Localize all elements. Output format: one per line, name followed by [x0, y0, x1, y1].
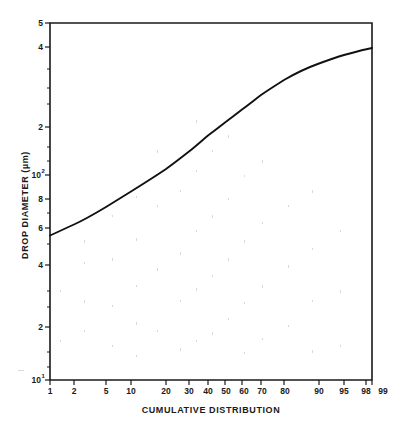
y-tick-label-60: 6 — [38, 223, 43, 233]
x-axis-title: CUMULATIVE DISTRIBUTION — [142, 405, 281, 415]
x-tick-label-50: 50 — [221, 386, 231, 396]
y-tick-label-40: 4 — [38, 260, 43, 270]
x-tick-label-2: 2 — [72, 386, 77, 396]
y-tick-label-20: 2 — [38, 322, 43, 332]
y-tick-label-10: 10 — [32, 375, 42, 385]
x-tick-label-95: 95 — [339, 386, 349, 396]
y-tick-label-80: 8 — [38, 194, 43, 204]
y-tick-label-200: 2 — [38, 122, 43, 132]
figure-background — [0, 0, 401, 434]
chart-figure: 5 4 2 10 2 8 6 4 2 10 1 — [0, 0, 401, 434]
x-tick-label-30: 30 — [184, 386, 194, 396]
x-tick-label-5: 5 — [104, 386, 109, 396]
y-tick-label-500: 5 — [38, 18, 43, 28]
x-tick-label-20: 20 — [161, 386, 171, 396]
y-tick-label-100: 10 — [32, 170, 42, 180]
x-tick-label-60: 60 — [239, 386, 249, 396]
x-tick-label-70: 70 — [257, 386, 267, 396]
x-tick-label-10: 10 — [126, 386, 136, 396]
x-tick-label-90: 90 — [314, 386, 324, 396]
x-tick-label-98: 98 — [361, 386, 371, 396]
x-tick-label-80: 80 — [280, 386, 290, 396]
log-probability-plot: 5 4 2 10 2 8 6 4 2 10 1 — [0, 0, 401, 434]
y-axis-title: DROP DIAMETER (µm) — [20, 151, 30, 259]
y-tick-label-400: 4 — [38, 42, 43, 52]
x-tick-label-40: 40 — [203, 386, 213, 396]
x-tick-label-1: 1 — [48, 386, 53, 396]
x-tick-label-99: 99 — [378, 386, 388, 396]
